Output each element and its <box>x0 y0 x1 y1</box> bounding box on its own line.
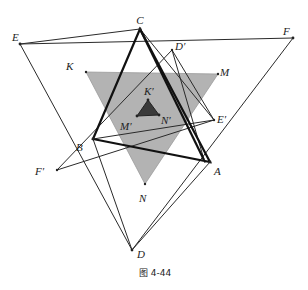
label-m: M <box>219 66 230 78</box>
segment-b-d <box>93 139 132 250</box>
label-ep: E′ <box>216 113 227 125</box>
label-e: E <box>11 31 19 43</box>
label-c: C <box>136 14 144 26</box>
label-f: F <box>282 25 290 37</box>
point-e <box>19 43 22 46</box>
point-f <box>292 37 295 40</box>
point-n <box>144 183 146 185</box>
point-c <box>139 28 142 31</box>
point-b <box>92 138 95 141</box>
figure-caption: 图 4-44 <box>139 268 172 278</box>
point-mp <box>136 115 139 118</box>
point-dp <box>171 49 173 51</box>
point-fp <box>56 169 58 171</box>
geometry-figure: C E F D B A K M N D′ E′ F′ K′ M′ N′ 图 4-… <box>0 0 308 290</box>
point-kp <box>147 99 150 102</box>
point-a <box>209 161 212 164</box>
point-m <box>217 73 219 75</box>
label-kp: K′ <box>143 85 154 97</box>
label-mp: M′ <box>119 120 132 132</box>
label-np: N′ <box>160 114 171 126</box>
label-k: K <box>65 60 74 72</box>
label-dp: D′ <box>174 40 186 52</box>
point-np <box>158 114 161 117</box>
label-a: A <box>213 165 221 177</box>
label-n: N <box>138 192 147 204</box>
point-k <box>85 71 87 73</box>
label-d: D <box>136 248 145 260</box>
label-fp: F′ <box>34 165 45 177</box>
label-b: B <box>76 141 83 153</box>
point-ep <box>213 119 215 121</box>
point-d <box>131 249 134 252</box>
